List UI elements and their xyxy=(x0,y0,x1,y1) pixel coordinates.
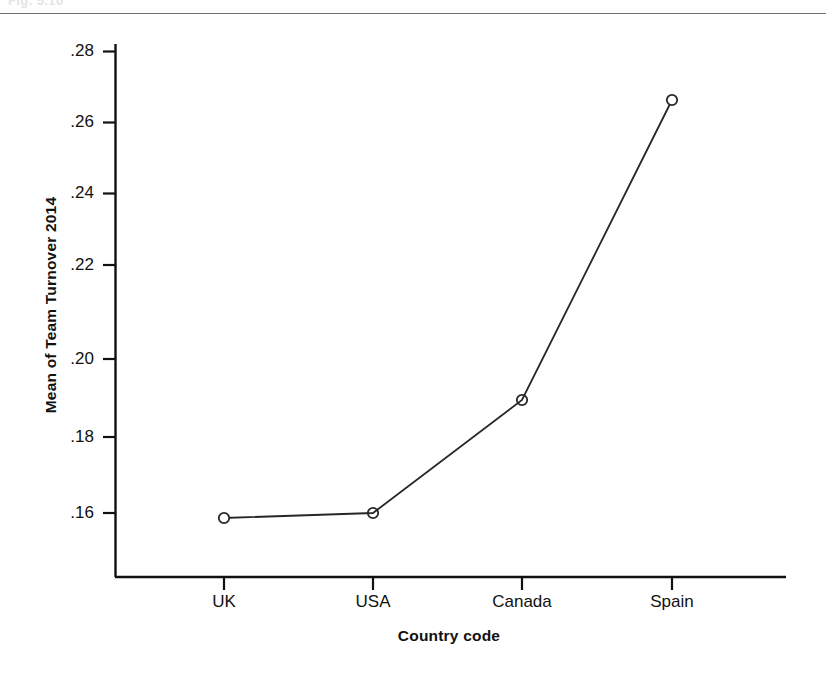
y-tick-label-6: .16 xyxy=(24,503,94,523)
x-tick-label-usa: USA xyxy=(303,592,443,612)
x-tick-label-spain: Spain xyxy=(602,592,742,612)
x-tick-label-canada: Canada xyxy=(452,592,592,612)
data-line-series xyxy=(224,100,672,518)
x-tick-label-uk: UK xyxy=(154,592,294,612)
y-tick-label-1: .26 xyxy=(24,112,94,132)
x-axis-title: Country code xyxy=(113,627,785,645)
y-tick-label-0: .28 xyxy=(24,41,94,61)
plot-area xyxy=(0,0,826,687)
y-axis-ticks xyxy=(103,52,116,514)
data-point-marker[interactable] xyxy=(219,513,229,523)
line-chart-figure: .28 .26 .24 .22 .20 .18 .16 UK USA Canad… xyxy=(0,0,826,687)
x-axis-ticks xyxy=(224,577,672,590)
y-axis-title: Mean of Team Turnover 2014 xyxy=(42,175,60,435)
data-point-marker[interactable] xyxy=(667,95,677,105)
